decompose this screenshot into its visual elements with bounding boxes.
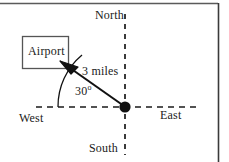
airport-box-label: Airport — [28, 45, 65, 57]
compass-label-west: West — [19, 112, 44, 124]
degree-symbol-icon: o — [87, 83, 91, 92]
angle-label: 30o — [75, 85, 92, 97]
compass-label-north: North — [95, 9, 124, 21]
distance-label: 3 miles — [82, 65, 118, 77]
compass-label-east: East — [160, 109, 181, 121]
origin-point-marker — [119, 101, 130, 112]
angle-value: 30 — [75, 84, 87, 98]
airport-bearing-diagram: North South West East Airport 3 miles 30… — [0, 0, 229, 162]
diagram-canvas — [0, 0, 229, 162]
compass-label-south: South — [89, 142, 118, 154]
